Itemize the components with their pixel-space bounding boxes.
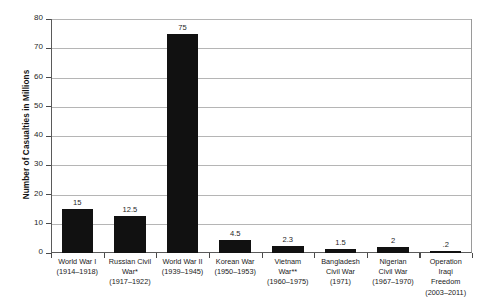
bar-value-label: 75 bbox=[156, 23, 209, 32]
x-axis-label-line: (1939–1945) bbox=[156, 267, 209, 277]
bar-value-label: 15 bbox=[51, 198, 104, 207]
x-axis-category-label: World War I(1914–1918) bbox=[51, 257, 104, 277]
x-axis-label-line: (1960–1975) bbox=[262, 277, 315, 287]
bar[interactable] bbox=[167, 34, 199, 253]
bar-value-label: 2.3 bbox=[262, 235, 315, 244]
x-axis-category-label: Korean War(1950–1953) bbox=[209, 257, 262, 277]
x-axis-label-line: (1971) bbox=[314, 277, 367, 287]
bar-chart: Number of Casualties in Millions 8070605… bbox=[0, 0, 485, 308]
bar-slot: 15 bbox=[51, 19, 104, 253]
x-axis-category-label: VietnamWar**(1960–1975) bbox=[262, 257, 315, 288]
x-axis-label-line: Russian Civil bbox=[104, 257, 157, 267]
bar[interactable] bbox=[325, 249, 357, 253]
y-tick-label: 0 bbox=[39, 247, 43, 256]
x-axis-label-line: Vietnam bbox=[262, 257, 315, 267]
bar-slot: 1.5 bbox=[314, 19, 367, 253]
x-axis-category-label: Russian CivilWar*(1917–1922) bbox=[104, 257, 157, 288]
y-tick-label: 40 bbox=[34, 130, 43, 139]
bar[interactable] bbox=[377, 247, 409, 253]
x-axis-label-line: Operation bbox=[419, 257, 472, 267]
x-axis-label-line: World War II bbox=[156, 257, 209, 267]
x-axis-label-line: (1967–1970) bbox=[367, 277, 420, 287]
x-axis-labels: World War I(1914–1918)Russian CivilWar*(… bbox=[51, 257, 472, 308]
x-axis-category-label: BangladeshCivil War(1971) bbox=[314, 257, 367, 288]
bar-value-label: 2 bbox=[367, 236, 420, 245]
bar[interactable] bbox=[114, 216, 146, 253]
bars-layer: 1512.5754.52.31.52.2 bbox=[51, 19, 472, 253]
x-axis-label-line: Nigerian bbox=[367, 257, 420, 267]
bar[interactable] bbox=[272, 246, 304, 253]
bar-value-label: 1.5 bbox=[314, 238, 367, 247]
x-axis-label-line: (2003–2011) bbox=[419, 288, 472, 298]
x-axis-category-label: NigerianCivil War(1967–1970) bbox=[367, 257, 420, 288]
x-axis-label-line: War** bbox=[262, 267, 315, 277]
x-axis-category-label: World War II(1939–1945) bbox=[156, 257, 209, 277]
x-axis-label-line: Civil War bbox=[314, 267, 367, 277]
x-tick-mark bbox=[472, 253, 473, 258]
bar[interactable] bbox=[430, 251, 462, 253]
x-axis-label-line: Freedom bbox=[419, 277, 472, 287]
x-axis-label-line: (1950–1953) bbox=[209, 267, 262, 277]
bar-slot: 4.5 bbox=[209, 19, 262, 253]
y-tick-label: 30 bbox=[34, 159, 43, 168]
y-tick-label: 80 bbox=[34, 13, 43, 22]
x-axis-label-line: World War I bbox=[51, 257, 104, 267]
y-tick-label: 50 bbox=[34, 101, 43, 110]
bar-value-label: .2 bbox=[419, 240, 472, 249]
y-tick-label: 10 bbox=[34, 218, 43, 227]
y-axis-title: Number of Casualties in Millions bbox=[22, 55, 31, 215]
y-tick-label: 20 bbox=[34, 189, 43, 198]
bar[interactable] bbox=[62, 209, 94, 253]
bar-value-label: 12.5 bbox=[104, 205, 157, 214]
x-axis-label-line: War* bbox=[104, 267, 157, 277]
x-axis-label-line: Civil War bbox=[367, 267, 420, 277]
bar-slot: 2.3 bbox=[262, 19, 315, 253]
bar-slot: .2 bbox=[419, 19, 472, 253]
x-axis-label-line: (1917–1922) bbox=[104, 277, 157, 287]
y-tick-label: 70 bbox=[34, 42, 43, 51]
x-axis-label-line: Iraqi bbox=[419, 267, 472, 277]
x-axis-label-line: (1914–1918) bbox=[51, 267, 104, 277]
bar-value-label: 4.5 bbox=[209, 229, 262, 238]
y-tick-label: 60 bbox=[34, 72, 43, 81]
bar-slot: 2 bbox=[367, 19, 420, 253]
x-axis-label-line: Korean War bbox=[209, 257, 262, 267]
bar-slot: 12.5 bbox=[104, 19, 157, 253]
x-axis-category-label: OperationIraqiFreedom(2003–2011) bbox=[419, 257, 472, 298]
x-axis-label-line: Bangladesh bbox=[314, 257, 367, 267]
bar-slot: 75 bbox=[156, 19, 209, 253]
bar[interactable] bbox=[219, 240, 251, 253]
